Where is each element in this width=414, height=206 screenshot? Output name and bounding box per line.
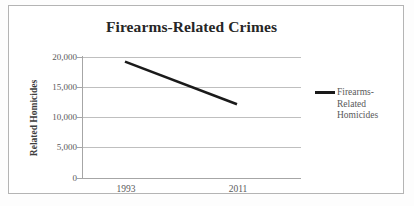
y-axis-title-text: Related Homicides	[29, 80, 39, 156]
chart-title: Firearms-Related Crimes	[69, 18, 314, 36]
legend: Firearms- Related Homicides	[315, 87, 403, 122]
y-tick-label-5000: 5,000	[57, 142, 77, 152]
chart-frame: Firearms-Related Crimes Related Homicide…	[8, 5, 404, 194]
y-tick-5000	[77, 147, 83, 148]
legend-label-line-3: Homicides	[337, 110, 378, 122]
y-tick-label-0: 0	[73, 173, 78, 183]
y-axis-title: Related Homicides	[27, 64, 41, 172]
gridline-10000	[82, 117, 301, 118]
gridline-20000	[82, 57, 301, 58]
legend-label-line-1: Firearms-	[337, 87, 378, 99]
legend-swatch-firearms-related-homicides	[315, 91, 335, 94]
gridline-5000	[82, 147, 301, 148]
y-tick-20000	[77, 57, 83, 58]
y-tick-10000	[77, 117, 83, 118]
gridline-0	[82, 178, 301, 179]
y-tick-label-10000: 10,000	[52, 112, 77, 122]
gridline-15000	[82, 87, 301, 88]
y-tick-label-20000: 20,000	[52, 52, 77, 62]
legend-label-firearms-related-homicides: Firearms- Related Homicides	[337, 87, 378, 122]
y-tick-15000	[77, 87, 83, 88]
chart-screenshot: Firearms-Related Crimes Related Homicide…	[0, 0, 414, 206]
plot-area: 20,000 15,000 10,000 5,000	[74, 51, 301, 178]
x-tick-label-2011: 2011	[229, 184, 248, 194]
x-tick-label-1993: 1993	[117, 184, 136, 194]
legend-label-line-2: Related	[337, 99, 378, 111]
y-tick-0	[77, 178, 83, 179]
y-tick-label-15000: 15,000	[52, 82, 77, 92]
